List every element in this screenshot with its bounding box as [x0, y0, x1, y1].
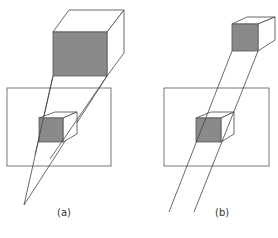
object-cube-b	[232, 17, 275, 51]
panel-label-b: (b)	[215, 207, 229, 218]
projection-diagram	[0, 0, 278, 238]
image-cube-a	[39, 112, 77, 142]
panel-b	[164, 17, 275, 212]
panel-a	[7, 10, 124, 205]
image-cube-b	[196, 112, 234, 142]
panel-label-a: (a)	[57, 207, 71, 218]
object-cube-a	[53, 10, 124, 76]
